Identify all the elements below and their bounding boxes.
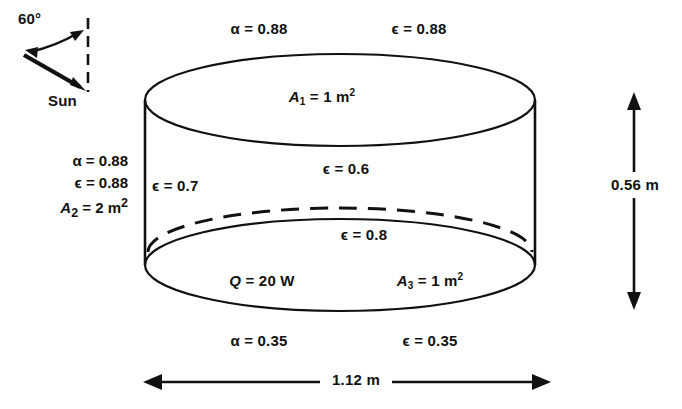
side-area-exponent: 2: [121, 196, 128, 210]
sun-source-label: Sun: [48, 92, 77, 109]
top-area-exponent: 2: [350, 87, 356, 98]
width-dimension-arrow-right: [532, 374, 551, 390]
angle-arc-arrowhead-right: [70, 30, 84, 41]
side-surface-property-block: α = 0.88 ϵ = 0.88 A2 = 2 m2: [0, 152, 128, 225]
height-dimension-arrow-top: [627, 92, 641, 110]
top-area-value: = 1 m: [305, 88, 349, 105]
heat-rate-symbol: Q: [229, 272, 241, 289]
side-surface-alpha-label: α = 0.88: [0, 152, 128, 169]
bottom-area-symbol: A: [397, 272, 408, 289]
height-dimension-group: [600, 92, 670, 310]
bottom-area-subscript: 3: [408, 280, 414, 291]
bottom-area-value: = 1 m: [413, 272, 457, 289]
top-surface-epsilon-outer-label: ϵ = 0.88: [391, 20, 446, 37]
width-dimension-label: 1.12 m: [332, 371, 380, 388]
diagram-canvas: 60° Sun α = 0.88 ϵ = 0.88 A1 = 1 m2 ϵ = …: [0, 0, 682, 409]
bottom-surface-epsilon-outer-label: ϵ = 0.35: [402, 332, 457, 349]
width-dimension-arrow-left: [143, 374, 162, 390]
side-surface-epsilon-inner-label: ϵ = 0.7: [152, 177, 199, 194]
side-area-value: = 2 m: [78, 199, 121, 216]
side-surface-epsilon-outer-label: ϵ = 0.88: [0, 174, 128, 191]
top-surface-area-label: A1 = 1 m2: [289, 88, 356, 105]
bottom-surface-epsilon-inner-label: ϵ = 0.8: [341, 226, 388, 243]
sun-angle-label: 60°: [18, 10, 41, 27]
top-area-symbol: A: [289, 88, 300, 105]
height-dimension-label: 0.56 m: [611, 176, 659, 193]
bottom-surface-area-label: A3 = 1 m2: [397, 272, 464, 289]
side-area-symbol: A: [60, 199, 71, 216]
heat-rate-value: = 20 W: [241, 272, 295, 289]
top-surface-epsilon-inner-label: ϵ = 0.6: [323, 160, 370, 177]
height-dimension-arrow-bottom: [627, 292, 641, 310]
top-surface-alpha-label: α = 0.88: [230, 20, 287, 37]
sun-ray-group: [24, 18, 88, 92]
heat-rate-label: Q = 20 W: [229, 272, 294, 289]
bottom-area-exponent: 2: [458, 271, 464, 282]
sun-ray-arrowhead: [70, 77, 86, 91]
bottom-surface-front-arc: [145, 265, 535, 311]
bottom-surface-alpha-label: α = 0.35: [230, 332, 287, 349]
top-area-subscript: 1: [300, 96, 306, 107]
side-surface-area-label: A2 = 2 m2: [0, 196, 128, 220]
